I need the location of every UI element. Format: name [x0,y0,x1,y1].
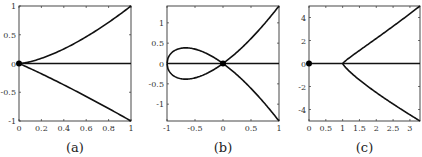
x-tick-label: 0 [306,124,311,133]
upper-branch-curve [19,6,131,64]
upper-branch-curve [167,6,279,79]
x-tick-label: 1.5 [353,124,366,133]
x-tick-label: -1 [163,124,171,133]
y-tick-label: 0 [159,60,164,69]
panel-a: 00.20.40.60.8110.50-0.5-1(a) [1,2,134,155]
panel-caption: (a) [66,140,84,155]
y-tick-label: -4 [298,106,306,115]
x-tick-label: 0.4 [57,124,70,133]
y-tick-label: -1 [8,117,16,126]
point-marker [306,61,312,67]
x-tick-label: 0.6 [80,124,93,133]
point-marker [220,61,226,67]
x-tick-label: 1 [276,124,281,133]
x-tick-label: 1 [340,124,345,133]
x-tick-label: 2 [374,124,379,133]
x-tick-label: -0.5 [187,124,202,133]
lower-branch-curve [167,48,279,121]
y-tick-label: -0.5 [149,80,164,89]
lower-branch-curve [343,64,420,122]
panel-caption: (c) [356,140,373,155]
panel-c: 00.511.522.53420-2-4(c) [298,6,420,155]
panel-caption: (b) [214,140,232,155]
y-tick-label: 0 [301,60,306,69]
x-tick-label: 0.8 [102,124,115,133]
y-tick-label: 0.5 [3,31,16,40]
x-tick-label: 0.2 [35,124,48,133]
y-tick-label: 1 [159,19,164,28]
y-tick-label: -0.5 [1,88,16,97]
panel-b: -1-0.500.5110.50-0.5-1(b) [149,6,282,155]
y-tick-label: 0 [11,60,16,69]
point-marker [16,61,22,67]
x-tick-label: 2.5 [387,124,400,133]
x-tick-label: 1 [128,124,133,133]
lower-branch-curve [19,64,131,122]
y-tick-label: -2 [298,83,306,92]
x-tick-label: 0.5 [245,124,258,133]
y-tick-label: -1 [156,100,164,109]
figure-three-panels: 00.20.40.60.8110.50-0.5-1(a)-1-0.500.511… [0,0,422,157]
y-tick-label: 1 [11,2,16,11]
upper-branch-curve [343,6,420,64]
x-tick-label: 3 [407,124,412,133]
x-tick-label: 0.5 [319,124,332,133]
x-tick-label: 0 [220,124,225,133]
y-tick-label: 4 [301,14,306,23]
y-tick-label: 2 [301,37,306,46]
x-tick-label: 0 [16,124,21,133]
y-tick-label: 0.5 [151,39,164,48]
